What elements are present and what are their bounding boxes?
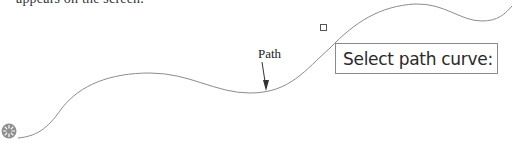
path-label: Path [258, 46, 281, 62]
busy-icon [1, 123, 17, 139]
path-leader-arrow [262, 62, 269, 91]
command-prompt-text: Select path curve: [343, 49, 493, 69]
pickbox-cursor [320, 24, 327, 31]
command-prompt-box: Select path curve: [335, 43, 498, 74]
